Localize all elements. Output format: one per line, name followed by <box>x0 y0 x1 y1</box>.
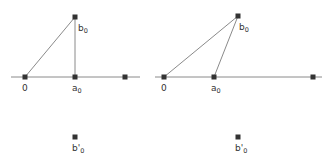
left-figure: 0 a0 b0 b'0 <box>11 15 140 156</box>
right-figure: 0 a0 b0 b'0 <box>155 14 322 156</box>
right-label-b0: b0 <box>239 22 249 34</box>
left-label-b0: b0 <box>78 23 88 35</box>
left-point-right <box>123 75 128 80</box>
right-point-origin <box>162 75 167 80</box>
right-segment-a0-b0 <box>214 16 238 77</box>
left-point-b0 <box>73 15 78 20</box>
right-point-a0 <box>212 75 217 80</box>
left-point-a0 <box>73 75 78 80</box>
left-label-b0prime: b'0 <box>72 143 84 155</box>
left-label-origin: 0 <box>22 83 28 93</box>
right-label-origin: 0 <box>161 83 167 93</box>
right-point-right <box>311 75 316 80</box>
right-segment-origin-b0 <box>164 16 238 77</box>
left-segment-origin-b0 <box>25 17 75 77</box>
diagram-canvas: 0 a0 b0 b'0 0 a0 b0 b'0 <box>0 0 334 163</box>
right-point-b0prime <box>236 135 241 140</box>
left-point-b0prime <box>73 135 78 140</box>
right-point-b0 <box>236 14 241 19</box>
right-label-b0prime: b'0 <box>235 143 247 155</box>
left-point-origin <box>23 75 28 80</box>
left-label-a0: a0 <box>72 83 82 95</box>
right-label-a0: a0 <box>211 83 221 95</box>
